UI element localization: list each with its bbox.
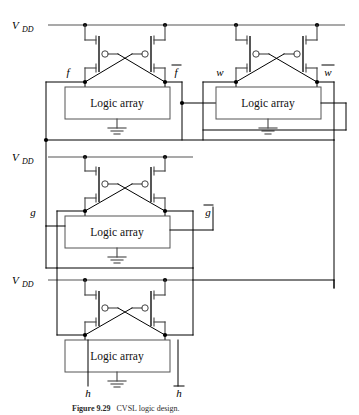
pmos-g-right [132,157,165,211]
svg-text:Figure 9.29 CVSL logic d: Figure 9.29 CVSL logic design. [72,404,180,413]
ground-symbol-g [108,248,126,263]
vdd-label-bottom: V DD [12,274,34,289]
signal-label-gbar: g [204,205,213,218]
vdd-label-top: V DD [12,19,34,34]
svg-text:DD: DD [21,280,34,289]
ground-symbol-w [259,119,277,134]
caption-text: CVSL logic design. [117,404,180,413]
ground-symbol-f [108,119,126,134]
cvsl-logic-figure: Logic array [0,0,359,415]
pmos-w-left [236,25,269,82]
logic-array-label: Logic array [241,97,295,110]
logic-array-label: Logic array [90,350,144,363]
signal-label-g: g [30,206,36,218]
svg-text:g: g [205,206,211,218]
pmos-h-right [132,280,165,335]
figure-caption: Figure 9.29 CVSL logic design. [72,404,180,413]
ground-symbol-h [108,372,126,387]
pmos-w-right [284,25,317,82]
signal-label-fbar: f [172,65,181,78]
pmos-f-right [132,25,165,82]
vdd-label-middle: V DD [12,151,34,166]
svg-text:V: V [12,274,20,286]
signal-label-h: h [85,387,91,399]
logic-array-label: Logic array [90,97,144,110]
pmos-f-left [85,25,118,82]
caption-number: Figure 9.29 [72,404,111,413]
svg-text:V: V [12,151,20,163]
signal-label-hbar: h [174,386,184,399]
pmos-h-left [85,280,118,335]
pmos-g-left [85,157,118,211]
signal-label-w: w [216,66,224,78]
svg-text:DD: DD [21,25,34,34]
svg-text:V: V [12,19,20,31]
svg-text:w: w [324,66,332,78]
svg-text:h: h [176,387,182,399]
logic-array-label: Logic array [90,226,144,239]
signal-label-wbar: w [322,65,334,78]
svg-text:DD: DD [21,157,34,166]
svg-text:f: f [174,66,179,78]
signal-label-f: f [66,66,71,78]
